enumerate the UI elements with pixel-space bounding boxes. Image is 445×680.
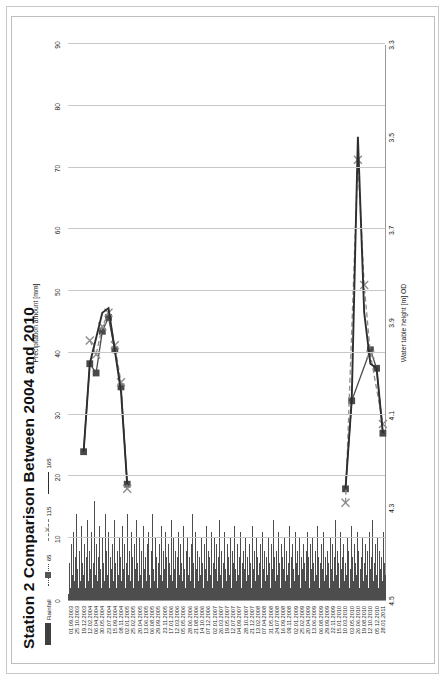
top-axis-tick: 10 — [54, 535, 61, 543]
legend-key-icon — [44, 623, 52, 645]
bottom-axis-tick: 4.1 — [388, 411, 395, 420]
category-label: 25.02.2005 — [130, 606, 136, 634]
category-label: 06.08.2005 — [149, 606, 155, 634]
category-label: 23.11.2005 — [162, 606, 168, 634]
top-axis-tick: 80 — [54, 103, 61, 111]
category-label: 19.05.2007 — [224, 606, 230, 634]
category-label: 19.12.2003 — [81, 606, 87, 634]
top-axis-tick: 0 — [54, 599, 61, 603]
category-label: 04.09.2007 — [236, 606, 242, 634]
category-label: 13.06.2005 — [143, 606, 149, 634]
printed-page: Station 2 Comparison Between 2004 and 20… — [0, 0, 445, 680]
gridline — [68, 414, 385, 415]
category-label: 06.08.2009 — [318, 606, 324, 634]
top-axis-tick: 90 — [54, 41, 61, 49]
category-label: 03.05.2010 — [349, 606, 355, 634]
category-label: 20.04.2009 — [305, 606, 311, 634]
top-axis-tick: 30 — [54, 412, 61, 420]
bottom-axis-tick: 3.9 — [388, 318, 395, 327]
category-label: 29.09.2009 — [324, 606, 330, 634]
plot-area — [68, 45, 386, 601]
category-label: 07.12.2006 — [205, 606, 211, 634]
top-axis-tick: 20 — [54, 474, 61, 482]
series-overlay — [68, 44, 386, 600]
bottom-axis-tick: 4.3 — [388, 504, 395, 513]
category-label: 13.02.2008 — [255, 606, 261, 634]
series-line-115 — [346, 160, 383, 503]
bottom-axis-tick: 3.5 — [388, 133, 395, 142]
top-axis-tick: 60 — [54, 227, 61, 235]
top-axis-tick: 50 — [54, 288, 61, 296]
category-label: 15.09.2004 — [112, 606, 118, 634]
bottom-axis-tick: 4.5 — [388, 596, 395, 605]
series-line-165 — [346, 137, 383, 489]
category-label: 02.01.2009 — [293, 606, 299, 634]
category-label: 12.03.2006 — [174, 606, 180, 634]
category-label: 22.11.2009 — [330, 606, 336, 634]
legend-entry-rainfall[interactable]: Rainfall — [44, 599, 52, 645]
category-label: 17.01.2006 — [168, 606, 174, 634]
category-label: 25.10.2003 — [74, 606, 80, 634]
category-label: 12.07.2007 — [230, 606, 236, 634]
category-label: 28.10.2007 — [243, 606, 249, 634]
series-marker-x — [86, 337, 94, 345]
gridline — [68, 105, 385, 106]
gridline — [68, 475, 385, 476]
category-label: 23.07.2004 — [106, 606, 112, 634]
category-label: 05.05.2006 — [180, 606, 186, 634]
category-label: 12.02.2004 — [87, 606, 93, 634]
category-label: 15.01.2010 — [336, 606, 342, 634]
category-label: 02.01.2007 — [212, 606, 218, 634]
series-marker-square — [93, 370, 100, 377]
top-axis-tick: 40 — [54, 350, 61, 358]
category-label: 07.04.2008 — [261, 606, 267, 634]
category-label: 13.06.2009 — [311, 606, 317, 634]
category-label: 05.12.2010 — [374, 606, 380, 634]
top-axis-title: Precipitation amount [mm] — [32, 45, 39, 601]
gridline — [68, 537, 385, 538]
bottom-axis-tick: 3.7 — [388, 226, 395, 235]
category-label: 16.09.2008 — [280, 606, 286, 634]
gridline — [68, 352, 385, 353]
legend-label: Rainfall — [45, 599, 52, 620]
category-label: 21.12.2007 — [249, 606, 255, 634]
category-label: 31.05.2008 — [268, 606, 274, 634]
gridline — [68, 228, 385, 229]
category-label: 28.01.2011 — [380, 606, 386, 634]
category-label: 19.08.2010 — [361, 606, 367, 634]
category-label: 06.04.2004 — [93, 606, 99, 634]
gridline — [68, 290, 385, 291]
chart-figure: Station 2 Comparison Between 2004 and 20… — [11, 16, 435, 664]
category-label: 10.03.2010 — [342, 606, 348, 634]
category-label: 09.11.2008 — [286, 606, 292, 634]
gridline — [68, 167, 385, 168]
top-axis-ticks: 0102030405060708090 — [46, 45, 68, 601]
category-label: 20.04.2005 — [137, 606, 143, 634]
category-label: 21.08.2006 — [193, 606, 199, 634]
category-label: 26.06.2010 — [355, 606, 361, 634]
category-label: 02.01.2005 — [124, 606, 130, 634]
category-label: 01.09.2003 — [68, 606, 74, 634]
category-label: 12.10.2010 — [367, 606, 373, 634]
top-axis-tick: 70 — [54, 165, 61, 173]
category-label: 14.10.2006 — [199, 606, 205, 634]
category-label: 08.11.2004 — [118, 606, 124, 634]
category-label: 26.03.2007 — [218, 606, 224, 634]
category-label: 30.05.2004 — [99, 606, 105, 634]
category-label: 24.07.2008 — [274, 606, 280, 634]
bottom-axis-tick: 3.3 — [388, 40, 395, 49]
rotated-chart-wrapper: Station 2 Comparison Between 2004 and 20… — [0, 0, 445, 680]
bottom-axis-title: Water table height [m] OD — [400, 45, 407, 601]
category-label: 29.09.2005 — [155, 606, 161, 634]
gridline — [68, 43, 385, 44]
category-label: 25.02.2009 — [299, 606, 305, 634]
category-label: 28.06.2006 — [187, 606, 193, 634]
category-axis-labels: 01.09.200325.10.200319.12.200312.02.2004… — [68, 603, 386, 663]
